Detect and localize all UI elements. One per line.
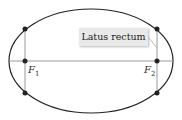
- endpoint-dot: [23, 91, 28, 96]
- focus-dot-2: [155, 59, 160, 64]
- latus-rectum-callout: Latus rectum: [79, 28, 148, 46]
- focus-dot-1: [23, 59, 28, 64]
- endpoint-dot: [155, 27, 160, 32]
- endpoint-dot: [155, 91, 160, 96]
- ellipse-diagram: [0, 0, 182, 120]
- focus-label-1: F1: [28, 64, 39, 78]
- endpoint-dot: [23, 27, 28, 32]
- focus-label-2: F2: [144, 64, 155, 78]
